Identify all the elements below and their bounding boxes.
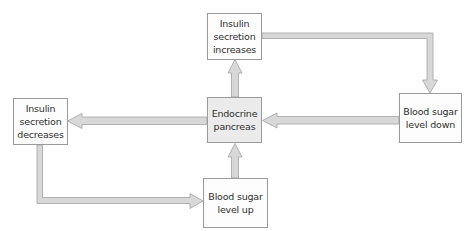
node-label: Blood sugar level down: [403, 105, 457, 131]
node-insulin-secretion-increases: Insulin secretion increases: [207, 13, 262, 60]
insulin-feedback-diagram: Insulin secretion increases Endocrine pa…: [0, 0, 469, 231]
node-label: Insulin secretion decreases: [17, 102, 63, 141]
node-label: Insulin secretion increases: [213, 17, 256, 56]
arrow-top-to-right: [262, 33, 438, 93]
node-blood-sugar-level-down: Blood sugar level down: [399, 93, 462, 143]
node-label: Blood sugar level up: [208, 190, 262, 216]
node-endocrine-pancreas: Endocrine pancreas: [207, 97, 262, 143]
arrow-right-to-center: [263, 113, 400, 128]
arrow-center-to-top: [228, 60, 242, 98]
node-blood-sugar-level-up: Blood sugar level up: [203, 178, 268, 228]
arrow-left-to-bottom: [37, 145, 203, 209]
arrow-center-to-left: [68, 114, 208, 129]
node-insulin-secretion-decreases: Insulin secretion decreases: [13, 98, 68, 145]
node-label: Endocrine pancreas: [212, 107, 258, 133]
arrow-bottom-to-center: [228, 144, 242, 179]
